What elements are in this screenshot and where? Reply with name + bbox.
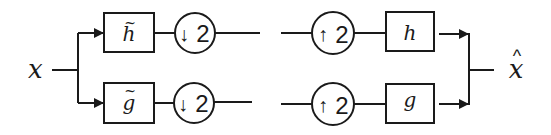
upsampler-bottom: ↑ 2 — [312, 83, 354, 125]
up-arrow-icon: ↑ — [318, 94, 328, 116]
factor-label: 2 — [335, 21, 348, 48]
downsampler-bottom: ↓ 2 — [174, 83, 214, 123]
analysis-filter-h-tilde: h ~ — [104, 13, 154, 52]
filter-bank-diagram: x h ~ g ~ ↓ 2 ↓ 2 ↑ 2 ↑ — [0, 0, 551, 135]
upsampler-top: ↑ 2 — [312, 12, 354, 54]
factor-label: 2 — [195, 90, 208, 117]
down-arrow-icon: ↓ — [179, 23, 189, 45]
hat-accent: ^ — [513, 46, 522, 66]
factor-label: 2 — [335, 92, 348, 119]
input-label: x — [28, 54, 43, 84]
tilde-accent: ~ — [124, 15, 136, 31]
downsampler-top: ↓ 2 — [175, 13, 215, 53]
tilde-accent: ~ — [124, 83, 136, 99]
filter-label: h — [404, 21, 417, 45]
factor-label: 2 — [196, 20, 209, 47]
down-arrow-icon: ↓ — [178, 93, 188, 115]
filter-label: g — [404, 88, 417, 112]
output-label: x ^ — [509, 46, 524, 84]
synthesis-filter-h: h — [386, 12, 434, 51]
up-arrow-icon: ↑ — [318, 23, 328, 45]
analysis-filter-g-tilde: g ~ — [104, 83, 154, 123]
synthesis-filter-g: g — [386, 84, 434, 123]
